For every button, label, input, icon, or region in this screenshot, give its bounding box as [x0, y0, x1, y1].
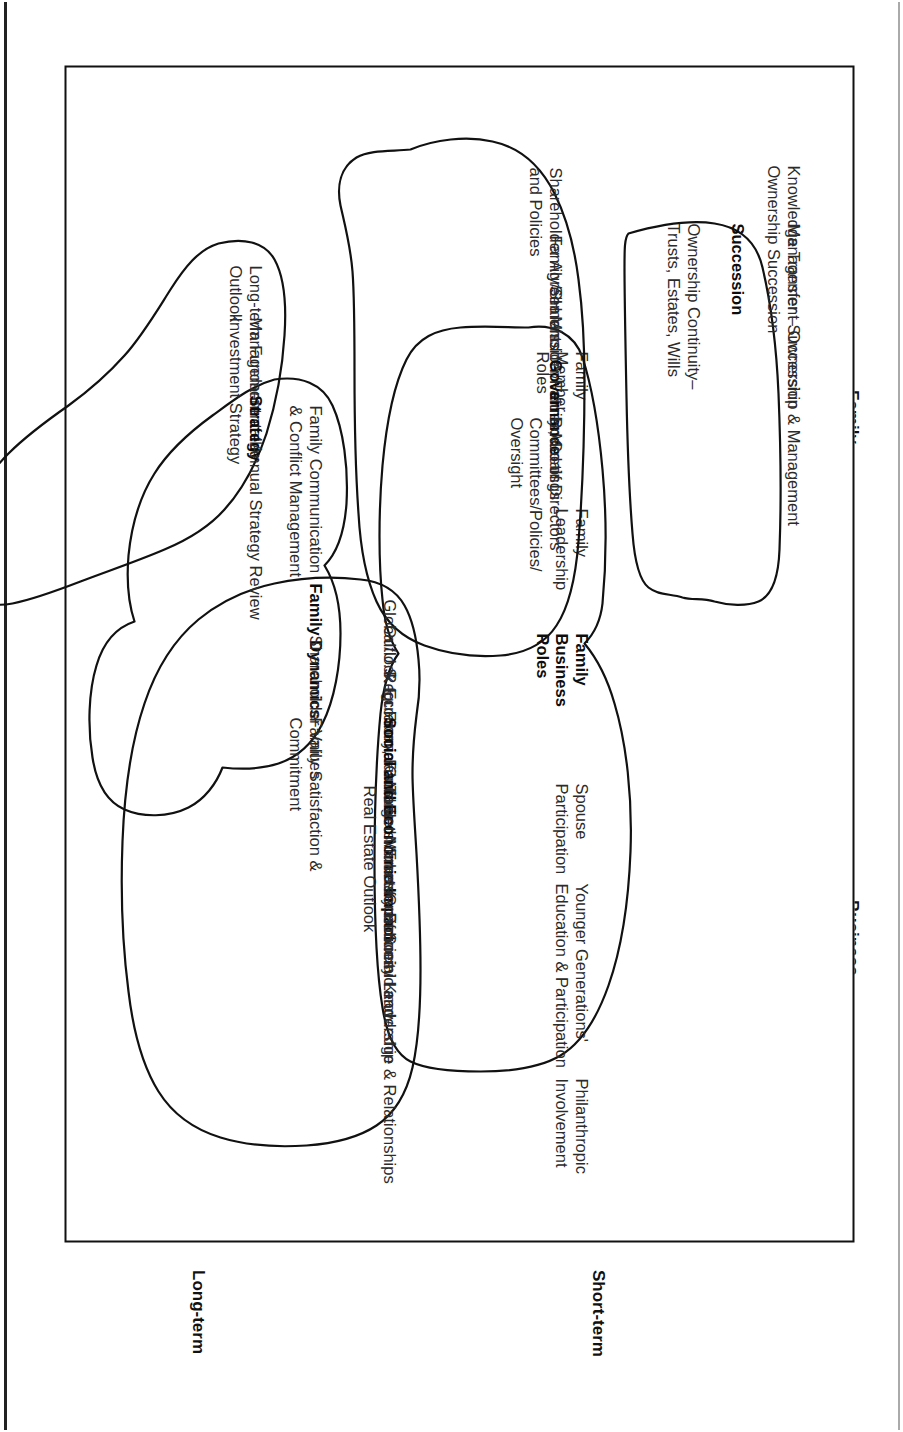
roles-item-3: Spouse Participation — [551, 783, 590, 874]
succession-heading: Succession — [727, 223, 747, 315]
axis-label-long-term: Long-term — [188, 1270, 208, 1354]
axis-label-short-term: Short-term — [588, 1270, 608, 1357]
succession-item-3: Ownership Continuity– Trusts, Estates, W… — [663, 223, 702, 389]
social-item-6: Community Leadership — [379, 893, 399, 1063]
diagram-stage: Management Succession Succession Ownersh… — [64, 65, 854, 1242]
cluster-strategy[interactable]: Long-term Fundamental Outlook Management… — [0, 227, 298, 627]
cluster-social-economic-impact[interactable]: Global/U.S. Economic Outlook Outlook for… — [112, 563, 438, 1203]
page-canvas: Family Business Long-term Short-term Man… — [0, 0, 903, 1432]
roles-item-4: Younger Generations' Education & Partici… — [551, 883, 590, 1067]
roles-item-5: Philanthropic Involvement — [551, 1078, 590, 1173]
governance-item-4: Board of Directors Committees/Policies/ … — [506, 417, 565, 571]
succession-item-1: Knowledge Transfer – Ownership & Managem… — [763, 165, 802, 525]
diagram-stage-wrapper: Management Succession Succession Ownersh… — [64, 65, 854, 1242]
strategy-item-3: Annual Strategy Review — [245, 443, 265, 619]
